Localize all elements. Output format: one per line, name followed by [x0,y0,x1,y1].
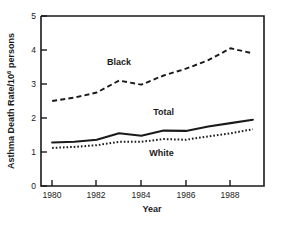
x-tick-label-1980: 1980 [43,190,62,200]
y-axis-title-suffix: persons [6,33,16,71]
series-label-total: Total [153,107,174,117]
y-axis-title-main: Asthma Death Rate/10 [6,74,16,169]
y-axis-title: Asthma Death Rate/106 persons [6,33,16,169]
y-tick-label-0: 0 [31,181,36,191]
chart-canvas: 5 4 3 2 1 0 1980 1982 1984 1986 1988 Yea… [0,0,281,226]
x-tick-label-1986: 1986 [177,190,196,200]
series-label-white: White [149,148,174,158]
y-tick-label-4: 4 [31,45,36,55]
y-tick-label-1: 1 [31,147,36,157]
y-tick-label-5: 5 [31,11,36,21]
x-axis-title: Year [142,204,162,214]
asthma-death-rate-chart: 5 4 3 2 1 0 1980 1982 1984 1986 1988 Yea… [0,0,281,226]
y-tick-label-3: 3 [31,79,36,89]
x-tick-label-1988: 1988 [221,190,240,200]
x-tick-label-1982: 1982 [87,190,106,200]
y-tick-label-2: 2 [31,113,36,123]
series-label-black: Black [107,57,132,67]
x-tick-label-1984: 1984 [132,190,151,200]
